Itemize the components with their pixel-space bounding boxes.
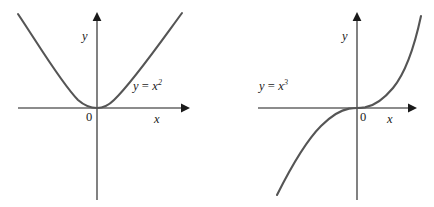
cubic-curve (277, 16, 421, 195)
y-axis-arrowhead-icon (353, 12, 362, 21)
x-axis-arrowhead-icon (181, 104, 190, 113)
equation-equals-sign: = (142, 79, 149, 93)
x-axis-arrowhead-icon (408, 104, 417, 113)
equation-variable: y (259, 79, 265, 93)
origin-label: 0 (86, 111, 92, 124)
x-axis-label: x (387, 113, 393, 126)
equation-label-cubic: y=x3 (259, 80, 288, 93)
equation-exponent: 2 (158, 78, 162, 87)
equation-label-parabola: y=x2 (133, 80, 162, 93)
cubic-plot (217, 0, 434, 207)
x-axis-label: x (154, 113, 160, 126)
equation-exponent: 3 (284, 78, 288, 87)
y-axis-arrowhead-icon (93, 12, 102, 21)
equation-equals-sign: = (268, 79, 275, 93)
equation-variable: y (133, 79, 139, 93)
y-axis-label: y (342, 30, 348, 43)
origin-label: 0 (360, 111, 366, 124)
parabola-curve (18, 13, 182, 108)
parabola-plot (0, 0, 217, 207)
figure-root: y x 0 y=x2 y x 0 y=x3 (0, 0, 434, 207)
y-axis-label: y (82, 30, 88, 43)
graph-panel-parabola: y x 0 y=x2 (0, 0, 217, 207)
graph-panel-cubic: y x 0 y=x3 (217, 0, 434, 207)
